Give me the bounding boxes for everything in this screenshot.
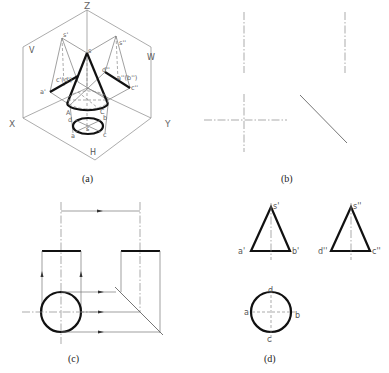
up-arrow-right-icon (80, 271, 83, 277)
panel-b: (b) (204, 12, 347, 185)
up-arrow-left-icon (41, 271, 44, 277)
panel-d: s' a' b' s'' d'' c'' d a b c (d) (238, 202, 381, 365)
label-a-b-double-prime: a''(b'') (117, 74, 137, 82)
d-label-d-double-prime: d'' (318, 247, 327, 256)
side-view: s'' d'' c'' (318, 202, 381, 260)
right-arrow-1-icon (98, 291, 104, 294)
d-label-s-prime: s' (273, 202, 279, 211)
d-label-d: d (268, 286, 273, 295)
d-label-a: a (244, 308, 249, 317)
45-degree-miter-line (300, 95, 347, 143)
panel-c: (c) (22, 202, 163, 365)
axis-z-label: Z (84, 1, 90, 11)
label-s-prime: s' (63, 31, 68, 39)
d-label-c: c (267, 335, 271, 344)
d-label-a-prime: a' (238, 247, 245, 256)
d-label-s-double-prime: s'' (353, 202, 362, 211)
label-c-double-prime: c'' (131, 84, 138, 92)
label-s-double-prime: s'' (119, 39, 126, 47)
d-label-b: b (295, 311, 300, 320)
label-a-h: a (71, 132, 75, 140)
label-a-prime: a' (40, 88, 46, 96)
front-view: s' a' b' (238, 202, 299, 260)
label-d-double-prime: d'' (102, 66, 110, 74)
label-d-h: d (68, 116, 72, 124)
right-arrow-2-icon (98, 311, 104, 314)
top-view: d a b c (244, 286, 300, 344)
projector-lines (50, 53, 130, 133)
label-s-h: s (86, 125, 90, 133)
right-arrow-3-icon (98, 331, 104, 334)
label-c-h: c (103, 131, 107, 139)
caption-c: (c) (68, 353, 79, 365)
d-label-c-double-prime: c'' (372, 247, 381, 256)
label-b-h: b (103, 114, 107, 122)
panel-a: Z X Y V W H s' s'' s a' c'(d') d'' a''(b… (9, 1, 171, 185)
d-label-b-prime: b' (292, 247, 299, 256)
label-s-apex: s (88, 47, 92, 55)
axis-y-label: Y (164, 119, 171, 129)
caption-a: (a) (82, 173, 93, 185)
cone-projection-figure: Z X Y V W H s' s'' s a' c'(d') d'' a''(b… (0, 0, 389, 373)
caption-b: (b) (281, 173, 293, 185)
plane-h-label: H (90, 148, 96, 157)
plane-w-label: W (147, 53, 155, 62)
caption-d: (d) (264, 353, 276, 365)
miter-line (115, 287, 163, 335)
plane-v-label: V (29, 46, 35, 55)
dimension-arrow-icon (97, 210, 103, 213)
label-c-d-prime: c'(d') (56, 76, 72, 84)
axis-x-label: X (9, 119, 15, 129)
